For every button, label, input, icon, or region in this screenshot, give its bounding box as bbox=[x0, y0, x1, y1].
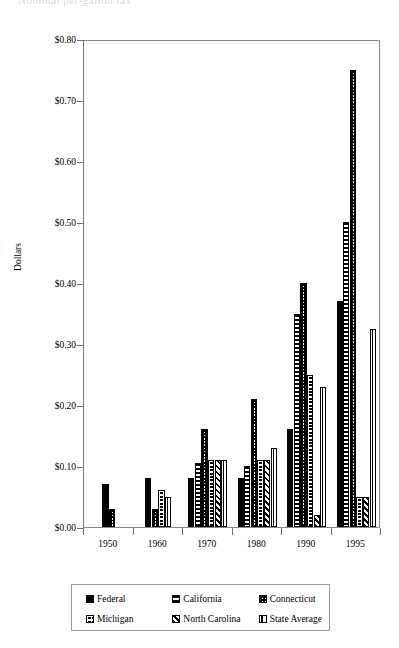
bar-federal-1950 bbox=[102, 484, 108, 527]
y-axis-tick-label: $0.00 bbox=[24, 523, 76, 533]
legend-swatch-icon bbox=[86, 615, 94, 623]
legend-label: Federal bbox=[97, 594, 126, 604]
legend-item-state-average[interactable]: State Average bbox=[259, 614, 329, 624]
x-axis-tick-label: 1960 bbox=[148, 539, 167, 549]
bar-michigan-1980 bbox=[257, 460, 263, 527]
bar-california-1995 bbox=[343, 222, 349, 527]
x-axis-tick-label: 1970 bbox=[197, 539, 216, 549]
legend-row: MichiganNorth CarolinaState Average bbox=[72, 609, 329, 629]
bar-michigan-1970 bbox=[208, 460, 214, 527]
bar-michigan-1990 bbox=[307, 375, 313, 528]
bar-north-carolina-1990 bbox=[314, 515, 320, 527]
x-axis-tick-mark bbox=[232, 528, 233, 535]
legend-row: FederalCaliforniaConnecticut bbox=[72, 589, 329, 609]
legend-label: State Average bbox=[270, 614, 322, 624]
x-axis-tick-mark bbox=[380, 528, 381, 535]
bar-state-average-1995 bbox=[370, 329, 376, 527]
legend-label: Connecticut bbox=[270, 594, 316, 604]
legend-item-michigan[interactable]: Michigan bbox=[72, 614, 172, 624]
y-axis-tick-label: $0.80 bbox=[24, 35, 76, 45]
bar-connecticut-1995 bbox=[350, 70, 356, 528]
y-axis-tick-label: $0.70 bbox=[24, 96, 76, 106]
x-axis-tick-mark bbox=[133, 528, 134, 535]
legend-swatch-icon bbox=[86, 595, 94, 603]
legend-label: Michigan bbox=[97, 614, 133, 624]
bar-state-average-1960 bbox=[165, 497, 171, 528]
bar-connecticut-1970 bbox=[201, 429, 207, 527]
y-axis-tick-label: $0.10 bbox=[24, 462, 76, 472]
bar-state-average-1980 bbox=[271, 448, 277, 527]
bar-california-1970 bbox=[195, 463, 201, 527]
bar-michigan-1960 bbox=[158, 490, 164, 527]
x-axis-tick-label: 1950 bbox=[98, 539, 117, 549]
legend-swatch-icon bbox=[259, 595, 267, 603]
legend-item-connecticut[interactable]: Connecticut bbox=[259, 594, 329, 604]
legend-label: California bbox=[183, 594, 222, 604]
x-axis-tick-mark bbox=[331, 528, 332, 535]
bar-north-carolina-1980 bbox=[264, 460, 270, 527]
y-axis-tick-label: $0.20 bbox=[24, 401, 76, 411]
legend-swatch-icon bbox=[259, 615, 267, 623]
x-axis-tick-mark bbox=[182, 528, 183, 535]
x-axis-tick-label: 1995 bbox=[346, 539, 365, 549]
bar-federal-1980 bbox=[238, 478, 244, 527]
bar-connecticut-1990 bbox=[300, 283, 306, 527]
x-axis-tick-mark bbox=[83, 528, 84, 535]
legend-item-north-carolina[interactable]: North Carolina bbox=[172, 614, 258, 624]
bar-federal-1960 bbox=[145, 478, 151, 527]
legend-swatch-icon bbox=[172, 595, 180, 603]
plot-area bbox=[83, 40, 380, 528]
bar-state-average-1970 bbox=[221, 460, 227, 527]
bar-federal-1970 bbox=[188, 478, 194, 527]
bar-connecticut-1980 bbox=[251, 399, 257, 527]
bar-state-average-1990 bbox=[320, 387, 326, 527]
bar-connecticut-1950 bbox=[109, 509, 115, 527]
bar-california-1980 bbox=[244, 466, 250, 527]
y-axis-tick-label: $0.50 bbox=[24, 218, 76, 228]
y-axis-tick-label: $0.40 bbox=[24, 279, 76, 289]
bar-federal-1995 bbox=[337, 301, 343, 527]
legend-item-california[interactable]: California bbox=[172, 594, 258, 604]
x-axis-tick-label: 1990 bbox=[296, 539, 315, 549]
legend-label: North Carolina bbox=[183, 614, 240, 624]
y-axis-tick-label: $0.30 bbox=[24, 340, 76, 350]
bar-california-1990 bbox=[294, 314, 300, 528]
legend-item-federal[interactable]: Federal bbox=[72, 594, 172, 604]
legend: FederalCaliforniaConnecticut MichiganNor… bbox=[71, 584, 330, 631]
bar-federal-1990 bbox=[287, 429, 293, 527]
legend-swatch-icon bbox=[172, 615, 180, 623]
bar-chart: Nominal per-gallon tax Dollars $0.80$0.7… bbox=[0, 0, 399, 648]
bar-north-carolina-1995 bbox=[363, 497, 369, 528]
bar-connecticut-1960 bbox=[152, 509, 158, 527]
bar-north-carolina-1970 bbox=[215, 460, 221, 527]
x-axis-tick-mark bbox=[281, 528, 282, 535]
bar-michigan-1995 bbox=[356, 497, 362, 528]
clipped-title: Nominal per-gallon tax bbox=[18, 0, 318, 6]
x-axis-tick-label: 1980 bbox=[247, 539, 266, 549]
y-axis-label: Dollars bbox=[13, 222, 23, 292]
y-axis-tick-label: $0.60 bbox=[24, 157, 76, 167]
